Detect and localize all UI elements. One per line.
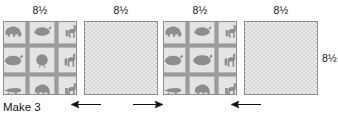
animal-print-grid [163,21,237,95]
arrow-right-icon [133,100,163,109]
animal-motif-whale [3,47,26,73]
fabric-block-3 [163,21,237,95]
dimension-label-block-3: 8½ [163,4,237,16]
arrow-left-icon [231,100,261,109]
fabric-block-1 [3,21,77,95]
animal-motif-whale [29,21,55,44]
animal-motif-elephant [29,76,55,95]
animal-motif-giraffe [58,76,77,95]
dimension-label-block-1: 8½ [3,4,77,16]
animal-print-grid [3,21,77,95]
dimension-label-height: 8½ [322,52,338,64]
dimension-label-block-2: 8½ [84,4,158,16]
make-quantity-caption: Make 3 [3,100,41,114]
animal-motif-giraffe [218,47,237,73]
animal-motif-crocodile [163,76,186,95]
arrow-left-icon [71,100,101,109]
animal-motif-elephant [189,76,215,95]
animal-motif-elephant [3,21,26,44]
animal-motif-giraffe [58,47,77,73]
animal-motif-giraffe [218,76,237,95]
animal-motif-whale [163,47,186,73]
dimension-label-block-4: 8½ [244,4,318,16]
animal-motif-giraffe [58,21,77,44]
quilt-assembly-diagram: 8½ 8½ 8½ 8½ 8½ [0,0,338,118]
animal-motif-lion [29,47,55,73]
animal-motif-whale [189,47,215,73]
fabric-block-2 [84,21,158,95]
animal-motif-whale [189,21,215,44]
animal-motif-giraffe [218,21,237,44]
animal-motif-crocodile [3,76,26,95]
animal-motif-elephant [163,21,186,44]
fabric-block-4 [244,21,318,95]
